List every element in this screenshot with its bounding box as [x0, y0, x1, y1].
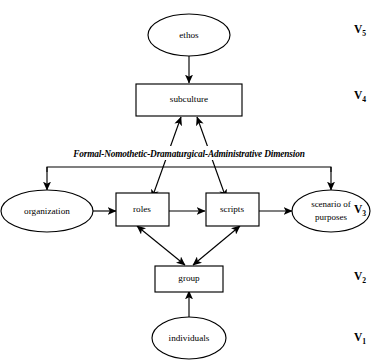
node-scenario-label-line2: purposes: [315, 212, 347, 222]
svg-text:V5: V5: [354, 23, 366, 38]
level-v2-subscript: 2: [362, 276, 366, 285]
node-organization[interactable]: organization: [1, 190, 93, 232]
svg-text:V2: V2: [354, 270, 366, 285]
level-v5-subscript: 5: [362, 29, 366, 38]
node-scripts[interactable]: scripts: [206, 193, 259, 226]
node-roles[interactable]: roles: [116, 193, 169, 226]
dimension-label: Formal-Nomothetic-Dramaturgical-Administ…: [72, 149, 305, 159]
dimension-bracket-spine: [47, 167, 331, 172]
level-label-v1: V1: [354, 331, 366, 346]
node-group[interactable]: group: [155, 266, 223, 292]
diagram-root: ethos subculture organization roles scri…: [0, 0, 378, 363]
node-scripts-label: scripts: [220, 204, 244, 214]
node-ethos[interactable]: ethos: [148, 14, 230, 56]
edge-roles-to-group: [137, 226, 185, 265]
node-organization-label: organization: [24, 206, 70, 216]
level-label-v2: V2: [354, 270, 366, 285]
level-label-v4: V4: [354, 89, 366, 104]
node-scenario-label-line1: scenario of: [311, 199, 351, 209]
level-label-v5: V5: [354, 23, 366, 38]
svg-text:V4: V4: [354, 89, 366, 104]
level-v3-subscript: 3: [362, 209, 366, 218]
svg-text:V1: V1: [354, 331, 366, 346]
node-individuals-label: individuals: [169, 333, 210, 343]
level-v4-subscript: 4: [362, 95, 366, 104]
node-roles-label: roles: [133, 204, 151, 214]
node-subculture[interactable]: subculture: [136, 84, 242, 116]
dimension-label-group: Formal-Nomothetic-Dramaturgical-Administ…: [44, 146, 334, 160]
diagram-canvas: ethos subculture organization roles scri…: [0, 0, 378, 363]
edge-scripts-to-group: [193, 226, 240, 265]
node-individuals[interactable]: individuals: [152, 317, 226, 359]
level-v1-subscript: 1: [362, 337, 366, 346]
node-group-label: group: [178, 273, 200, 283]
node-ethos-label: ethos: [179, 30, 199, 40]
node-subculture-label: subculture: [170, 94, 208, 104]
